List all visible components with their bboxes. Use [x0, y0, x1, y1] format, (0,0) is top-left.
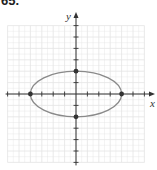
vertex-point [74, 114, 79, 119]
vertex-point [119, 92, 124, 97]
y-axis-label: y [65, 10, 71, 22]
y-axis-arrow-icon [74, 12, 79, 18]
vertex-point [74, 69, 79, 74]
x-axis-arrow-icon [149, 92, 155, 97]
coordinate-plane: xy [0, 0, 157, 170]
x-axis-label: x [149, 97, 155, 109]
vertex-point [28, 92, 33, 97]
